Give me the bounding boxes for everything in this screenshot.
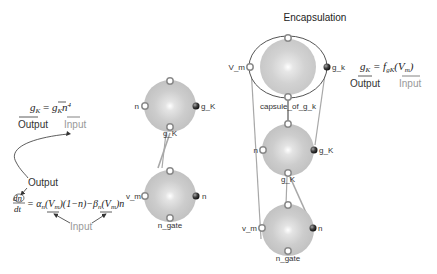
port-label: n [254,146,258,155]
ode-input-label: Input [70,221,92,232]
capsule-of-gk[interactable]: V_m g_k capsule_of_g_k [229,35,346,111]
port-top[interactable] [167,78,173,84]
wire-gk-ngate-2 [162,133,166,168]
port-right[interactable] [310,225,317,232]
port-label: n_gate [158,221,183,230]
port-left[interactable] [247,64,253,70]
gk-output-label: Output [18,119,48,130]
svg-text:= αn(Vm)(1−n)−βn(Vm)n: = αn(Vm)(1−n)−βn(Vm)n [27,198,124,211]
port-top[interactable] [167,168,173,174]
port-label: g_K [163,129,178,138]
port-top[interactable] [285,35,291,41]
port-right[interactable] [311,147,318,154]
diagram-title: Encapsulation [284,12,347,23]
ode-equation: dn dt = αn(Vm)(1−n)−βn(Vm)n [13,193,124,214]
port-top[interactable] [285,202,291,208]
port-left[interactable] [142,103,148,109]
port-right[interactable] [324,64,331,71]
curved-connector-arrow [14,134,68,178]
port-label: n [202,192,206,201]
gk-input-label: Input [64,119,86,130]
port-label: g_K [281,175,296,184]
encapsulation-diagram: Encapsulation gK = gKn4 Output Input Out… [0,0,437,274]
svg-text:gK = fgK(Vm): gK = fgK(Vm) [360,60,414,74]
module-ngate-middle[interactable]: v_m n n_gate [126,168,207,230]
port-label: V_m [229,63,246,72]
port-right[interactable] [193,193,200,200]
module-gk-middle[interactable]: n g_K g_K [135,78,216,138]
right-output-label: Output [350,78,380,89]
port-label: n_gate [276,254,301,263]
input-arrow-left [54,214,70,223]
svg-text:dn: dn [13,193,23,203]
arrowhead-icon [66,131,71,136]
sphere [262,124,314,176]
port-label: g_k [332,63,346,72]
port-top[interactable] [285,121,291,127]
right-input-label: Input [399,78,421,89]
port-left[interactable] [142,193,148,199]
capsule-label: capsule_of_g_k [260,102,317,111]
port-label: n [318,224,322,233]
port-left[interactable] [260,147,266,153]
port-label: v_m [242,224,257,233]
port-left[interactable] [259,225,265,231]
port-label: g_K [319,146,334,155]
port-right[interactable] [193,103,200,110]
port-label: g_K [201,102,216,111]
gk-equation-left: gK = gKn4 [19,101,80,117]
svg-text:dt: dt [14,204,22,214]
input-arrow-right [92,214,106,223]
sphere [260,39,316,95]
svg-text:gK = gKn4: gK = gKn4 [30,101,72,115]
ode-output-label: Output [28,177,58,188]
gk-equation-right: gK = fgK(Vm) [358,60,420,76]
port-label: n [135,102,139,111]
module-ngate-capsule[interactable]: v_m n n_gate [242,202,323,263]
port-bottom[interactable] [285,94,291,100]
module-gk-capsule[interactable]: n g_K g_K [254,121,334,184]
port-label: v_m [126,192,141,201]
